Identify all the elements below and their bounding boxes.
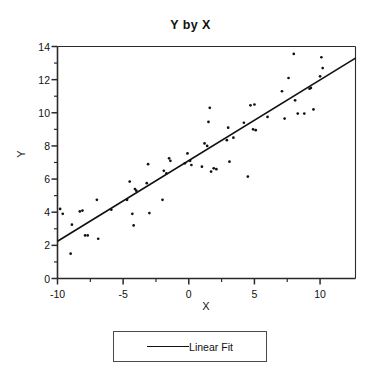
scatter-point [212,167,215,170]
scatter-point [78,210,81,213]
scatter-point [169,159,172,162]
scatter-point [303,112,306,115]
y-tick-label: 4 [22,206,50,218]
scatter-point [266,116,269,119]
scatter-point [249,104,252,107]
legend-item-linear-fit: Linear Fit [114,332,266,361]
chart-figure: Y by X 02468101214 -10-50510 Y X Linear … [0,0,381,380]
scatter-point [61,213,64,216]
scatter-point [84,234,87,237]
y-tick-label: 10 [22,107,50,119]
x-tick-label: -5 [118,288,127,300]
scatter-point [319,75,322,78]
scatter-point [69,252,72,255]
scatter-point [208,106,211,109]
x-axis-title: X [171,300,241,312]
scatter-point [59,208,62,211]
scatter-point [292,53,295,56]
chart-legend: Linear Fit [113,331,267,362]
y-tick-label: 2 [22,239,50,251]
scatter-point [186,152,189,155]
scatter-points [59,53,324,255]
scatter-point [226,139,229,142]
scatter-point [97,237,100,240]
scatter-point [254,129,257,132]
scatter-point [168,157,171,160]
y-tick-label: 0 [22,273,50,285]
scatter-point [253,103,256,106]
x-tick-label: 5 [251,288,257,300]
scatter-point [145,182,148,185]
scatter-point [283,117,286,120]
scatter-point [281,90,284,93]
scatter-point [210,170,213,173]
x-tick-label: 10 [314,288,326,300]
x-tick-label: 0 [186,288,192,300]
y-axis-title: Y [15,141,27,167]
scatter-point [201,165,204,168]
scatter-point [243,121,246,124]
scatter-point [227,126,230,129]
scatter-point [86,234,89,237]
scatter-point [215,168,218,171]
scatter-point [232,136,235,139]
scatter-point [320,56,323,59]
scatter-point [190,164,193,167]
y-tick-label: 6 [22,173,50,185]
y-tick-label: 14 [22,41,50,53]
scatter-point [71,223,74,226]
scatter-point [203,142,206,145]
scatter-point [132,224,135,227]
scatter-point [247,175,250,178]
scatter-point [162,169,165,172]
scatter-point [252,128,255,131]
scatter-point [287,77,290,80]
plot-area [0,0,381,380]
scatter-point [131,213,134,216]
scatter-point [148,212,151,215]
axis-ticks [52,47,321,285]
scatter-point [161,198,164,201]
scatter-point [312,108,315,111]
axes-frame [58,47,356,279]
scatter-point [294,99,297,102]
legend-item-label: Linear Fit [189,341,233,353]
scatter-point [81,209,84,212]
scatter-point [321,67,324,70]
scatter-point [207,121,210,124]
scatter-point [96,198,99,201]
scatter-point [147,163,150,166]
x-tick-label: -10 [50,288,65,300]
fit-line [58,58,356,241]
scatter-point [206,145,209,148]
legend-line-swatch [147,346,189,347]
scatter-point [128,180,131,183]
scatter-point [296,112,299,115]
y-tick-label: 12 [22,74,50,86]
scatter-point [228,160,231,163]
linear-fit-line [58,58,356,241]
